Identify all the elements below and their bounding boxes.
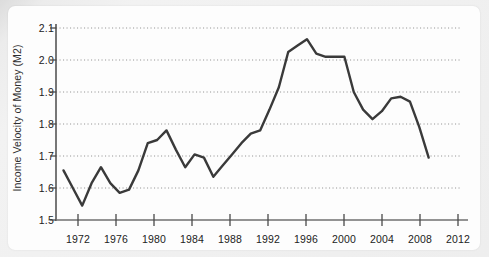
plot-area: Income Velocity of Money (M2) 2.1 2.0 1.… <box>0 0 489 257</box>
y-axis-ticks <box>50 28 56 220</box>
gridlines <box>56 28 461 188</box>
chart-svg <box>0 0 489 257</box>
chart-figure: Income Velocity of Money (M2) 2.1 2.0 1.… <box>0 0 489 257</box>
data-series-line <box>63 39 428 205</box>
